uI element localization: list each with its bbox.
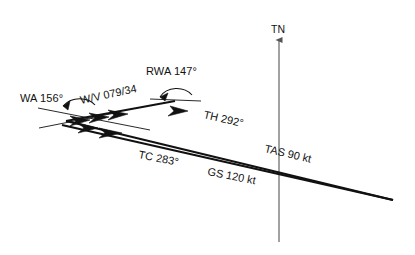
tas-vector-arrowhead-mid (168, 106, 188, 116)
diagram-vector-graphics: W/V 079/34 TH 292° TAS 90 kt TC 283° GS … (0, 0, 415, 255)
true-heading-label: TH 292° (203, 108, 245, 129)
relative-wind-angle-arc (160, 88, 192, 101)
gs-vector-line (62, 125, 393, 200)
wind-velocity-label: W/V 079/34 (79, 82, 138, 106)
wind-angle-label: WA 156° (20, 93, 63, 104)
relative-wind-angle-reference-line (150, 99, 201, 101)
true-north-label: TN (271, 24, 285, 35)
ground-speed-vector (62, 123, 393, 200)
true-airspeed-label: TAS 90 kt (264, 142, 313, 164)
wind-triangle-diagram: W/V 079/34 TH 292° TAS 90 kt TC 283° GS … (0, 0, 415, 255)
rwa-reference-line (150, 99, 201, 101)
relative-wind-angle-label: RWA 147° (146, 66, 197, 77)
